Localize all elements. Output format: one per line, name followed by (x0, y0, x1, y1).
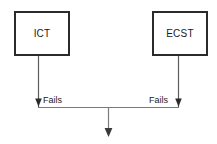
arrowhead-ict-down (35, 99, 42, 107)
arrowhead-output-down (105, 128, 113, 137)
node-ecst[interactable]: ECST (152, 11, 208, 56)
arrowhead-ecst-down (175, 99, 182, 107)
edge-label-ict-fails: Fails (43, 96, 62, 105)
diagram-canvas: ICT ECST Fails Fails (0, 0, 217, 144)
edge-label-ecst-fails: Fails (149, 96, 168, 105)
node-ict-label: ICT (34, 29, 51, 39)
node-ecst-label: ECST (166, 29, 193, 39)
node-ict[interactable]: ICT (14, 11, 70, 56)
